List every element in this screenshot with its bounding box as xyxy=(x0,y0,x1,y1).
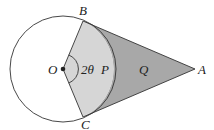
label-angle: 2θ xyxy=(81,62,95,77)
label-a: A xyxy=(197,62,206,77)
tangent-sector-diagram: O B C A 2θ P Q xyxy=(0,0,214,130)
label-q: Q xyxy=(139,62,149,77)
label-c: C xyxy=(81,117,90,130)
center-dot xyxy=(61,67,66,72)
label-b: B xyxy=(79,3,87,18)
label-o: O xyxy=(48,62,58,77)
label-p: P xyxy=(100,62,109,77)
